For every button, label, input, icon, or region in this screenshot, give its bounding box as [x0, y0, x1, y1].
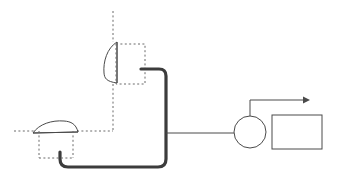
output-arrow-shaft — [250, 100, 303, 116]
upper-lens-body — [104, 42, 117, 83]
optical-schematic-diagram: Optical beam delivery schematic Line-art… — [0, 0, 341, 193]
output-arrow-head — [303, 97, 310, 104]
lower-lens — [33, 121, 78, 133]
circle-node-outline — [234, 116, 266, 148]
upper-mount-box-outline — [116, 44, 145, 84]
output-module — [272, 115, 322, 149]
waveguide-pipe — [60, 69, 166, 167]
lower-mount-box — [39, 131, 73, 158]
upper-mount-box — [116, 44, 145, 84]
waveguide-pipe-path — [60, 69, 166, 167]
lower-lens-body — [33, 121, 78, 133]
output-arrow — [250, 97, 310, 116]
output-module-outline — [272, 115, 322, 149]
diagram-canvas: Optical beam delivery schematic Line-art… — [0, 0, 341, 193]
upper-lens — [104, 42, 117, 83]
circle-node — [234, 116, 266, 148]
